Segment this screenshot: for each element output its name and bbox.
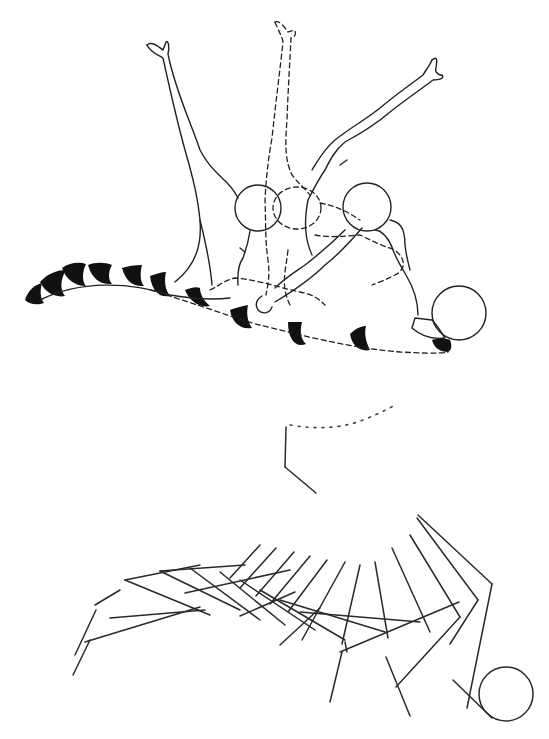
bottom-panel-stick-figures: [0, 0, 549, 739]
dotted-arc: [290, 405, 395, 428]
ball-bottom: [479, 667, 533, 721]
illustration-canvas: [0, 0, 549, 739]
stick-figure-head-arm: [285, 427, 316, 493]
stick-figure-right-leg: [386, 515, 492, 718]
